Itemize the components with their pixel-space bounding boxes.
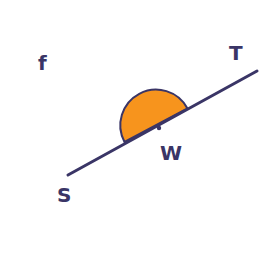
label-point-s: S: [57, 183, 71, 207]
point-w-dot: [157, 126, 161, 130]
diagram-canvas: f T W S: [0, 0, 272, 255]
label-point-t: T: [229, 41, 243, 65]
label-plane-f: f: [38, 51, 47, 75]
label-point-w: W: [160, 141, 182, 165]
